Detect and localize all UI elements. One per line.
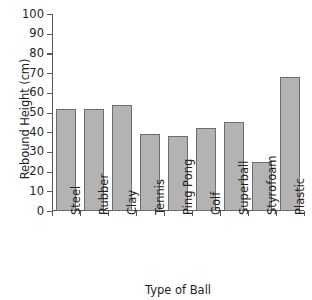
category-label-plastic: Plastic: [295, 178, 307, 215]
y-tick-label: 70: [29, 68, 44, 80]
x-axis-title: Type of Ball: [52, 283, 304, 297]
y-tick-label: 90: [29, 29, 44, 41]
category-label-superball: Superball: [239, 161, 251, 215]
chart-title-cropped: [0, 0, 312, 3]
y-tick-label: 30: [29, 147, 44, 159]
y-tick-label: 50: [29, 107, 44, 119]
x-tick: [52, 211, 53, 216]
category-label-tennis: Tennis: [155, 179, 167, 215]
category-label-steel: Steel: [71, 186, 83, 215]
category-label-rubber: Rubber: [99, 174, 111, 215]
y-tick-label: 40: [29, 127, 44, 139]
y-tick-label: 80: [29, 48, 44, 60]
y-tick-label: 10: [29, 186, 44, 198]
y-tick-label: 100: [22, 9, 44, 21]
category-label-styrofoam: Styrofoam: [267, 156, 279, 215]
bar-chart: Rebound Height (cm) 10090807060504030201…: [0, 0, 312, 300]
y-tick-label: 0: [37, 206, 44, 218]
category-label-ping-pong: Ping Pong: [183, 159, 195, 215]
category-label-clay: Clay: [127, 190, 139, 215]
category-label-golf: Golf: [211, 192, 223, 215]
y-tick-label: 60: [29, 88, 44, 100]
y-tick-label: 20: [29, 166, 44, 178]
